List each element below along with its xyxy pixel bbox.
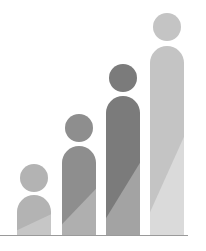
growth-illustration <box>0 0 206 251</box>
person-figure-1 <box>17 164 51 235</box>
person-figure-4 <box>150 13 184 235</box>
people-bars-graphic <box>0 0 206 251</box>
person-figure-2 <box>62 114 96 235</box>
person-head <box>20 164 48 192</box>
person-head <box>153 13 181 41</box>
person-head <box>109 64 137 92</box>
person-figure-3 <box>106 64 140 235</box>
person-head <box>65 114 93 142</box>
